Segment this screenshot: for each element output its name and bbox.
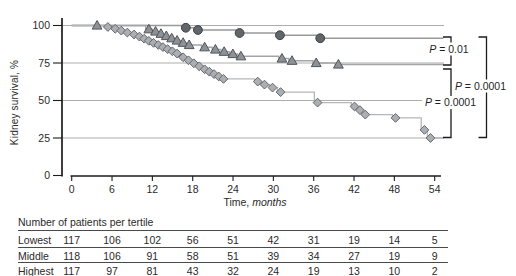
x-axis-title-plain: Time, [223,196,249,208]
x-tick-label-48: 48 [389,183,401,195]
x-tick-label-54: 54 [429,183,441,195]
at-risk-count: 51 [227,250,239,262]
y-tick-label-75: 75 [38,57,50,69]
at-risk-count: 10 [389,265,401,276]
p-value-label-1: P = 0.0001 [425,96,476,108]
censor-marker-circle [316,34,325,43]
censor-marker-circle [181,23,190,32]
table-rule-header [18,230,448,231]
at-risk-count: 81 [147,265,159,276]
censor-marker-diamond [103,23,112,32]
x-tick-label-6: 6 [109,183,115,195]
y-tick-label-0: 0 [44,169,50,181]
p-value-label-0: P = 0.01 [429,43,469,55]
table-row-highest: Highest11797814332241913102 [0,265,516,276]
at-risk-count: 43 [187,265,199,276]
at-risk-count: 106 [103,250,121,262]
y-tick-label-50: 50 [38,94,50,106]
y-tick-label-25: 25 [38,132,50,144]
row-label: Lowest [18,234,51,246]
kidney-survival-figure: 1007550250061218243036424854P = 0.01P = … [0,0,516,276]
at-risk-count: 117 [63,234,80,246]
at-risk-count: 24 [268,265,280,276]
x-tick-label-18: 18 [187,183,199,195]
km-survival-chart: 1007550250061218243036424854P = 0.01P = … [0,0,516,212]
p-value-label-2: P = 0.0001 [455,80,506,92]
at-risk-count: 91 [147,250,159,262]
x-tick-label-36: 36 [308,183,320,195]
at-risk-count: 102 [144,234,162,246]
at-risk-count: 117 [63,265,80,276]
at-risk-count: 106 [103,234,121,246]
at-risk-count: 97 [106,265,118,276]
censor-marker-circle [235,29,244,38]
table-rule-1 [18,247,448,248]
x-tick-label-30: 30 [268,183,280,195]
at-risk-count: 39 [268,250,280,262]
x-tick-label-12: 12 [147,183,159,195]
row-label: Highest [18,265,54,276]
at-risk-count: 19 [308,265,320,276]
at-risk-count: 13 [348,265,360,276]
at-risk-count: 2 [432,265,438,276]
at-risk-count: 32 [227,265,239,276]
at-risk-count: 31 [308,234,320,246]
censor-marker-triangle [92,21,102,30]
at-risk-count: 34 [308,250,320,262]
x-tick-label-42: 42 [348,183,360,195]
at-risk-count: 56 [187,234,199,246]
at-risk-count: 5 [432,234,438,246]
at-risk-count: 9 [432,250,438,262]
at-risk-count: 42 [268,234,280,246]
x-tick-label-24: 24 [227,183,239,195]
row-label: Middle [18,250,49,262]
table-row-lowest: Lowest1171061025651423119145 [0,234,516,247]
at-risk-count: 118 [63,250,80,262]
censor-marker-circle [276,31,285,40]
at-risk-count: 58 [187,250,199,262]
x-axis-title: Time, months [180,196,330,208]
censor-marker-circle [194,26,203,35]
patients-table-title: Number of patients per tertile [18,216,153,228]
at-risk-count: 19 [389,250,401,262]
table-row-middle: Middle118106915851393427199 [0,250,516,263]
at-risk-count: 51 [227,234,239,246]
x-axis-title-unit: months [252,196,286,208]
x-tick-label-0: 0 [69,183,75,195]
y-axis-title: Kidney survival, % [9,23,20,183]
at-risk-count: 19 [348,234,360,246]
at-risk-count: 27 [348,250,360,262]
y-tick-label-100: 100 [32,19,50,31]
at-risk-count: 14 [389,234,401,246]
